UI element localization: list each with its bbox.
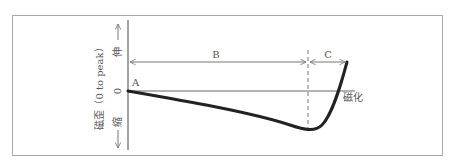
figure-frame — [13, 16, 443, 156]
magnetostriction-diagram: 伸 0 縮 磁歪（0 to peak） B C A 磁化 — [0, 0, 454, 168]
magnetostriction-curve — [128, 62, 347, 130]
x-axis-label: 磁化 — [343, 91, 363, 103]
y-axis-top-label: 伸 — [112, 47, 123, 57]
y-axis-bottom-label: 縮 — [111, 117, 123, 127]
point-a-label: A — [131, 77, 140, 88]
y-axis-zero-label: 0 — [112, 88, 123, 94]
y-axis-labels: 伸 0 縮 磁歪（0 to peak） — [93, 42, 123, 129]
y-axis-title: 磁歪（0 to peak） — [93, 42, 105, 129]
region-b-label: B — [212, 49, 219, 60]
region-c-label: C — [324, 49, 332, 60]
